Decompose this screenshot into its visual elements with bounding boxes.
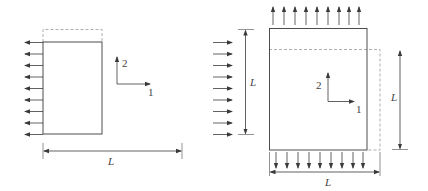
diagram-canvas: 2 1 L <box>0 0 428 191</box>
right-figure: L L L 2 1 <box>213 7 408 188</box>
right-bottom-dimension-label: L <box>324 176 331 188</box>
left-load-arrows <box>25 43 43 135</box>
right-bottom-dimension-line <box>270 152 381 176</box>
right-axis-2-label: 2 <box>316 79 322 91</box>
left-axis-1-label: 1 <box>148 86 154 98</box>
right-coordinate-axes <box>328 73 354 102</box>
right-bottom-load-arrows <box>276 152 363 168</box>
right-axis-1-label: 1 <box>356 103 362 115</box>
left-dimension-label: L <box>107 155 114 167</box>
left-specimen-rect <box>43 42 102 134</box>
left-axis-2-label: 2 <box>122 57 128 69</box>
left-deformed-outline <box>43 30 102 43</box>
right-deformed-outline <box>269 50 380 151</box>
left-figure: 2 1 L <box>25 30 182 168</box>
right-left-dimension-label: L <box>249 76 256 88</box>
right-right-dimension-label: L <box>390 91 397 103</box>
right-left-load-arrows <box>213 43 232 135</box>
right-top-load-arrows <box>273 7 359 25</box>
